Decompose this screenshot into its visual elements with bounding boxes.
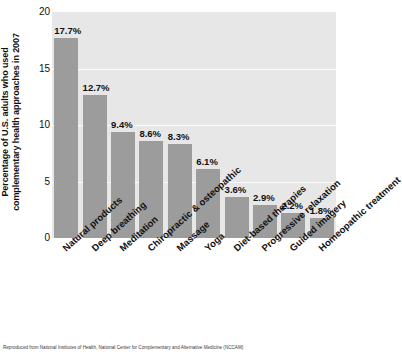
bar-slot: 3.6% [225,12,249,238]
bar-value-label: 2.9% [253,193,275,203]
bar[interactable] [54,38,78,238]
y-tick-label: 5 [24,177,50,187]
x-axis-category-labels: Natural productsDeep breathingMeditation… [0,240,346,336]
source-caption: Reproduced from National Institutes of H… [3,345,343,351]
y-tick-label: 10 [24,120,50,130]
bar-value-label: 8.3% [168,132,190,142]
bar-value-label: 9.4% [111,120,133,130]
bar-value-label: 8.6% [139,129,161,139]
y-axis-title-line-1: Percentage of U.S. adults who used [0,6,11,238]
bar-value-label: 12.7% [83,83,110,93]
bar-slot: 12.7% [83,12,107,238]
bar-value-label: 17.7% [54,26,81,36]
y-axis-tick-labels: 05101520 [22,0,50,245]
bar-slot: 17.7% [54,12,78,238]
bar-value-label: 3.6% [225,185,247,195]
y-axis-title-line-2: complementary health approaches in 2007 [11,6,22,238]
bar-slot: 2.9% [253,12,277,238]
bar-slot: 8.3% [168,12,192,238]
bar-value-label: 6.1% [196,157,218,167]
y-tick-label: 15 [24,64,50,74]
y-tick-label: 20 [24,7,50,17]
